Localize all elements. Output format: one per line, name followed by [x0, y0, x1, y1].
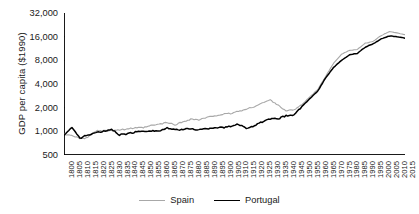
- y-axis-tick-label: 32,000: [30, 8, 58, 18]
- y-axis-tick-label: 4,000: [35, 79, 58, 89]
- legend-label: Portugal: [245, 195, 280, 205]
- legend-line-swatch: [214, 200, 240, 201]
- x-axis-tick-label: 2015: [408, 161, 417, 178]
- gdp-per-capita-chart: GDP per capita ($1990) 32,00016,0008,000…: [0, 0, 419, 214]
- y-axis-tick-label: 8,000: [35, 55, 58, 65]
- series-lines: [64, 13, 405, 155]
- legend-item: Spain: [139, 195, 194, 205]
- plot-area: [64, 13, 405, 155]
- legend-item: Portugal: [214, 195, 280, 205]
- chart-legend: SpainPortugal: [0, 190, 419, 210]
- legend-line-swatch: [139, 200, 165, 201]
- y-axis-tick-label: 500: [42, 150, 58, 160]
- y-axis-tick-label: 2,000: [35, 103, 58, 113]
- y-axis-tick-label: 1,000: [35, 126, 58, 136]
- y-axis-tick-label: 16,000: [30, 32, 58, 42]
- legend-label: Spain: [170, 195, 194, 205]
- y-axis-tick-labels: 32,00016,0008,0004,0002,0001,000500: [0, 0, 64, 214]
